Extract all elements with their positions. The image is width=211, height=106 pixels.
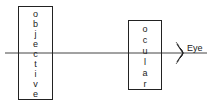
svg-text:t: t [34, 59, 37, 69]
svg-text:v: v [33, 79, 38, 89]
svg-text:e: e [33, 89, 38, 99]
svg-text:c: c [33, 49, 38, 59]
svg-text:j: j [34, 29, 37, 39]
ocular-label: o c u l a r [142, 24, 147, 89]
svg-text:u: u [142, 46, 147, 56]
svg-text:r: r [144, 79, 147, 89]
svg-text:b: b [33, 19, 38, 29]
eye-label: Eye [187, 43, 203, 53]
objective-label: o b j e c t i v e [33, 9, 38, 99]
svg-text:o: o [33, 9, 38, 19]
svg-text:a: a [142, 68, 147, 78]
svg-text:e: e [33, 39, 38, 49]
svg-text:c: c [143, 35, 148, 45]
microscope-diagram: o b j e c t i v e o c u l a r Eye [0, 0, 211, 106]
svg-text:l: l [144, 57, 146, 67]
svg-text:o: o [142, 24, 147, 34]
svg-text:i: i [35, 69, 37, 79]
